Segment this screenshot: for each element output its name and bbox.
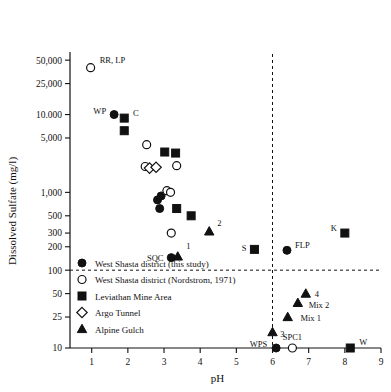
data-point-2-8 [346,344,354,352]
x-tick-label-3: 3 [162,357,167,367]
y-tick-label-300: 300 [48,228,63,238]
x-tick-label-9: 9 [379,357,384,367]
legend-label-1: West Shasta district (Nordstrom, 1971) [95,275,236,285]
y-tick-label-50: 50 [53,289,63,299]
data-point-4-4 [283,312,292,320]
data-point-0-0 [110,111,118,119]
annotation-flp: FLP [295,240,310,250]
y-tick-label-5,000: 5,000 [41,133,63,143]
data-point-1-1 [143,141,151,149]
annotation-mix-1: Mix 1 [300,313,321,323]
chart-figure: 50,00025,00010.0005,0001,000500300200100… [0,0,391,392]
x-tick-label-6: 6 [270,357,275,367]
x-tick-label-4: 4 [198,357,203,367]
annotation-mix-2: Mix 2 [309,300,330,310]
x-tick-label-5: 5 [234,357,239,367]
legend-label-2: Leviathan Mine Area [95,292,171,302]
data-point-2-1 [120,127,128,135]
data-point-2-6 [250,245,258,253]
annotation-2: 2 [217,218,221,228]
y-tick-label-10.000: 10.000 [36,110,62,120]
data-point-1-0 [87,64,95,72]
data-point-1-6 [167,229,175,237]
legend-label-3: Argo Tunnel [95,308,141,318]
data-point-4-3 [293,298,302,306]
annotation-s: S [242,243,247,253]
y-tick-label-10: 10 [53,343,63,353]
legend-marker-2 [78,292,86,300]
scatter-plot-svg: 50,00025,00010.0005,0001,000500300200100… [0,0,391,392]
data-point-2-4 [173,205,181,213]
annotation-wp: WP [93,106,106,116]
y-tick-label-25,000: 25,000 [36,79,62,89]
x-tick-label-1: 1 [89,357,94,367]
data-point-2-7 [341,229,349,237]
y-tick-label-25: 25 [53,312,63,322]
data-point-1-7 [288,344,296,352]
x-tick-label-2: 2 [125,357,130,367]
x-tick-label-7: 7 [306,357,311,367]
y-tick-label-100: 100 [48,266,63,276]
legend-label-4: Alpine Gulch [95,325,144,335]
data-point-0-6 [272,344,280,352]
legend-marker-0 [78,259,86,267]
legend-marker-1 [78,276,86,284]
y-tick-label-1,000: 1,000 [41,188,63,198]
data-point-0-3 [156,205,164,213]
annotation-spc1: SPC1 [283,332,302,342]
y-tick-label-500: 500 [48,211,63,221]
data-point-2-0 [120,114,128,122]
annotation-wps: WPS [250,339,268,349]
data-point-2-5 [187,212,195,220]
data-point-1-5 [167,188,175,196]
data-point-4-2 [301,289,310,297]
x-tick-label-8: 8 [342,357,347,367]
data-point-2-2 [161,148,169,156]
annotation-k: K [331,223,338,233]
y-tick-label-50,000: 50,000 [36,56,62,66]
data-point-2-3 [172,149,180,157]
legend-marker-4 [77,324,86,332]
legend-label-0: West Shasta district (this study) [95,259,209,269]
y-tick-label-200: 200 [48,242,63,252]
annotation-4: 4 [315,289,320,299]
x-axis-title: pH [211,372,225,384]
annotation-w: W [359,337,367,347]
data-point-4-0 [205,227,214,235]
annotation-rr-lp: RR, LP [100,55,126,65]
annotation-1: 1 [186,241,190,251]
y-axis-title: Dissolved Sulfate (mg/l) [6,157,19,265]
data-point-1-3 [173,162,181,170]
data-point-0-5 [283,246,291,254]
annotation-c: C [133,108,139,118]
data-point-4-5 [268,327,277,335]
legend-marker-3 [77,307,87,317]
